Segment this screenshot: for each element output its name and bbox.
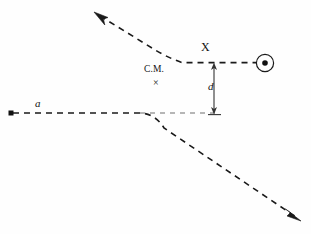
upper-trajectory-path (100, 16, 256, 63)
target-point-label: X (201, 41, 210, 53)
center-of-mass-marker-icon: × (153, 78, 159, 88)
lower-trajectory-arrowhead (286, 209, 302, 221)
lower-trajectory-path (13, 113, 296, 217)
diagram-canvas (0, 0, 311, 234)
scattering-diagram-figure: a d X C.M. × (0, 0, 311, 234)
deflected-lower-trajectory (13, 113, 301, 221)
impact-parameter-label: a (35, 98, 41, 109)
center-of-mass-label: C.M. (144, 65, 164, 75)
deflected-upper-trajectory (94, 12, 256, 63)
scattering-center-inner-dot (262, 60, 268, 66)
scattering-center-circle-dot (256, 54, 273, 71)
separation-distance-label: d (208, 81, 214, 92)
incoming-particle-dot (9, 111, 14, 116)
upper-trajectory-arrowhead (94, 12, 108, 25)
